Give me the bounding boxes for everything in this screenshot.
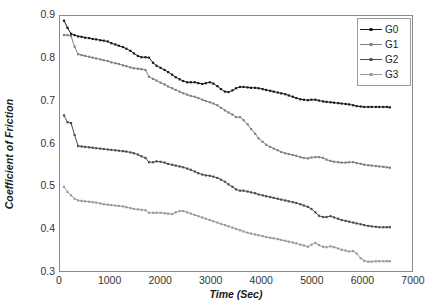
- x-tick-label: 3000: [191, 274, 231, 286]
- x-tick-label: 2000: [140, 274, 180, 286]
- x-tick-label: 5000: [292, 274, 332, 286]
- y-tick-label: 0.8: [25, 51, 55, 63]
- x-tick-label: 1000: [90, 274, 130, 286]
- legend-item-g3[interactable]: G3: [358, 67, 410, 82]
- legend-label: G0: [382, 25, 398, 35]
- legend: G0G1G2G3: [357, 18, 411, 86]
- legend-item-g1[interactable]: G1: [358, 37, 410, 52]
- legend-line-marker-icon: [360, 55, 382, 65]
- y-axis-title: Coefficient of Friction: [0, 0, 18, 308]
- x-axis-title: Time (Sec): [59, 286, 413, 302]
- legend-line-marker-icon: [360, 25, 382, 35]
- y-axis-tick-labels: 0.90.80.70.60.50.40.3: [21, 15, 55, 272]
- legend-item-g2[interactable]: G2: [358, 52, 410, 67]
- y-tick-label: 0.7: [25, 94, 55, 106]
- y-tick-label: 0.6: [25, 137, 55, 149]
- y-tick-label: 0.9: [25, 8, 55, 20]
- legend-label: G3: [382, 70, 398, 80]
- series-g1: [63, 34, 391, 169]
- x-tick-label: 4000: [241, 274, 281, 286]
- chart-figure: Coefficient of Friction 0.90.80.70.60.50…: [0, 0, 438, 308]
- series-g2: [63, 114, 391, 228]
- series-g3: [63, 186, 391, 263]
- y-tick-label: 0.4: [25, 222, 55, 234]
- x-tick-label: 6000: [342, 274, 382, 286]
- legend-label: G2: [382, 55, 398, 65]
- legend-line-marker-icon: [360, 40, 382, 50]
- legend-line-marker-icon: [360, 70, 382, 80]
- series-g0: [63, 20, 391, 109]
- y-tick-label: 0.5: [25, 179, 55, 191]
- x-tick-label: 0: [39, 274, 79, 286]
- legend-label: G1: [382, 40, 398, 50]
- x-tick-label: 7000: [393, 274, 433, 286]
- legend-item-g0[interactable]: G0: [358, 22, 410, 37]
